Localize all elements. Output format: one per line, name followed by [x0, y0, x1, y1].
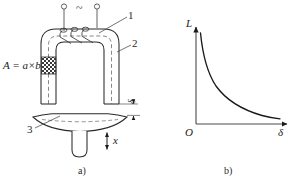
- air-gap-label: δ: [127, 99, 137, 104]
- armature-body: [33, 114, 127, 132]
- ac-source-symbol: ~: [76, 2, 83, 14]
- armature-stem: [72, 131, 87, 157]
- figure-drawing: [0, 0, 302, 189]
- panel-b-drawing: [196, 27, 287, 124]
- coil-winding: [60, 27, 93, 43]
- terminal-right-icon: [94, 4, 99, 9]
- callout-label-3: 3: [27, 124, 33, 135]
- core-flux-centerline: [49, 36, 112, 104]
- chart-y-axis-label: L: [186, 18, 192, 29]
- panel-a-drawing: [33, 4, 140, 157]
- callout-label-1: 1: [128, 10, 134, 21]
- panel-a-caption: a): [78, 166, 86, 176]
- panel-b-caption: b): [224, 166, 232, 176]
- chart-origin-label: O: [185, 127, 193, 138]
- chart-curve: [201, 33, 281, 119]
- figure-container: ~ 1 2 3 A = a×b δ x a) L O δ b): [0, 0, 302, 189]
- callout-label-2: 2: [132, 38, 138, 49]
- core-cross-section-hatch: [42, 57, 56, 74]
- cross-section-area-label: A = a×b: [3, 60, 41, 71]
- displacement-label: x: [113, 135, 118, 146]
- core-inner-outline: [56, 42, 104, 104]
- terminal-left-icon: [61, 4, 66, 9]
- chart-x-axis-label: δ: [278, 127, 283, 138]
